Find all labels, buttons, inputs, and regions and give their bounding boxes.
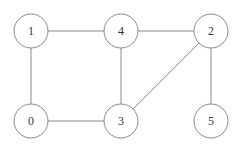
node-label: 5 [208,114,214,128]
node-2: 2 [194,14,228,48]
node-label: 2 [208,24,214,38]
node-label: 0 [28,114,34,128]
node-label: 3 [118,114,124,128]
node-5: 5 [194,104,228,138]
edge-3-2 [133,43,199,109]
node-0: 0 [14,104,48,138]
node-4: 4 [104,14,138,48]
node-3: 3 [104,104,138,138]
node-1: 1 [14,14,48,48]
node-label: 4 [118,24,124,38]
node-label: 1 [28,24,34,38]
graph-diagram: 142035 [0,0,243,145]
